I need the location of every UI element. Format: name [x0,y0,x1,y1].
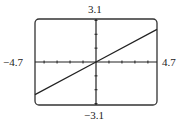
plot-area [0,0,189,128]
